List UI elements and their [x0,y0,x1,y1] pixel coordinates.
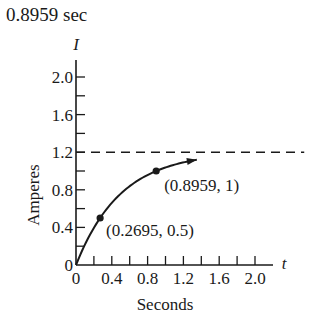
x-axis-label: Seconds [137,295,194,314]
x-tick-label: 0.4 [101,269,123,288]
x-tick-label: 0.8 [137,269,158,288]
data-point-dot [97,214,104,221]
y-axis-symbol: I [72,35,80,54]
data-point-dot [153,167,160,174]
y-tick-label: 1.2 [52,143,73,162]
y-tick-label: 1.6 [52,106,73,125]
x-tick-label: 2.0 [244,269,265,288]
x-axis-symbol: t [282,254,288,273]
data-point-label: (0.2695, 0.5) [106,221,194,240]
x-tick-label: 1.6 [209,269,230,288]
x-tick-label: 0 [72,269,81,288]
chart: 00.40.81.21.62.000.40.81.21.62.0ItSecond… [0,0,324,333]
y-axis-label: Amperes [24,164,43,225]
y-tick-label: 0.8 [52,181,73,200]
y-tick-label: 2.0 [52,68,73,87]
y-tick-label: 0.4 [52,218,74,237]
x-tick-label: 1.2 [173,269,194,288]
data-point-label: (0.8959, 1) [164,176,239,195]
